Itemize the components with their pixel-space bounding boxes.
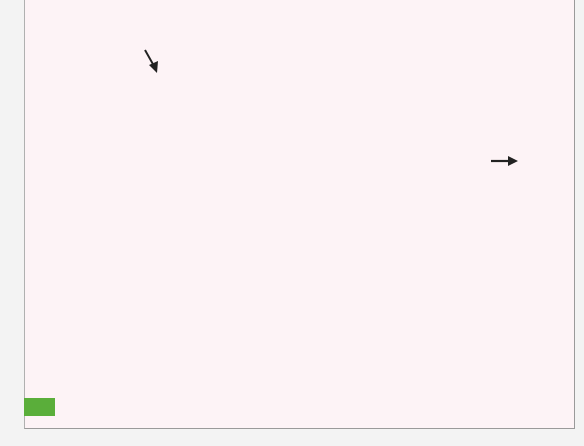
exit-arrow-icon <box>491 156 518 166</box>
maze-walls <box>0 0 584 446</box>
page-number <box>24 398 55 416</box>
entrance-arrow-icon <box>145 50 158 73</box>
